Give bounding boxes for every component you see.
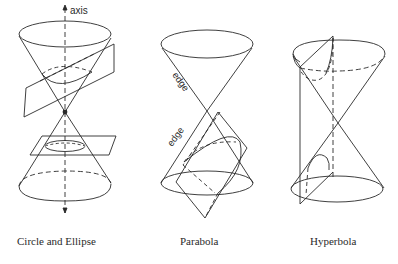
caption-hyperbola: Hyperbola [310,235,356,247]
horizontal-plane [30,136,116,155]
edge-label-upper: edge [170,70,191,94]
ellipse-section-front [42,72,92,84]
axis-arrow-down-icon [63,208,67,213]
hyperbola-figure [291,36,385,204]
axis-arrow-up-icon [63,5,67,10]
lower-nappe-rim [161,171,253,195]
parabola-section [184,137,241,193]
axis-label: axis [70,5,88,16]
lower-nappe-rim [291,176,383,202]
circle-ellipse-figure: axis [19,5,116,213]
hyperbola-branch-lower [308,155,329,170]
caption-parabola: Parabola [180,235,218,247]
parabola-figure: edge edge [161,30,253,218]
upper-nappe-rim [161,30,253,58]
parallel-plane [176,112,247,218]
upper-nappe-rim-front [293,40,385,54]
caption-circle-ellipse: Circle and Ellipse [17,235,96,247]
edge-label-lower: edge [165,125,186,149]
conic-sections-diagram: axis [0,0,398,264]
upper-nappe-rim-back [300,54,385,71]
